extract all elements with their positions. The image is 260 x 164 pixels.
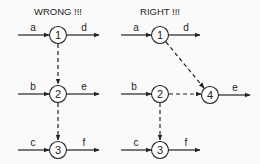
- node-2-label: 2: [55, 88, 61, 100]
- node-2-label: 2: [157, 88, 163, 100]
- edge-label-d: d: [183, 22, 189, 33]
- edge-label-a: a: [133, 22, 139, 33]
- edge-label-f: f: [185, 137, 188, 148]
- network-diagrams: WRONG !!! a 1 d b 2 e c 3 f RIGHT !!! a …: [0, 0, 260, 164]
- edge-label-e: e: [232, 82, 238, 93]
- edge-label-b: b: [131, 81, 137, 92]
- node-1-label: 1: [157, 29, 163, 41]
- right-title: RIGHT !!!: [140, 6, 180, 17]
- edge-label-e: e: [81, 81, 87, 92]
- wrong-title: WRONG !!!: [34, 6, 82, 17]
- node-1-label: 1: [55, 29, 61, 41]
- edge-label-c: c: [31, 137, 36, 148]
- wrong-diagram: WRONG !!! a 1 d b 2 e c 3 f: [18, 6, 99, 159]
- node-4-label: 4: [207, 89, 213, 101]
- edge-label-f: f: [83, 137, 86, 148]
- edge-label-c: c: [134, 137, 139, 148]
- node-3-label: 3: [157, 144, 163, 156]
- edge-label-a: a: [30, 22, 36, 33]
- edge-label-b: b: [30, 81, 36, 92]
- right-diagram: RIGHT !!! a 1 d b 2 4 e c 3 f: [121, 6, 250, 159]
- edge-label-d: d: [81, 22, 87, 33]
- dummy-edge-1-4: [166, 42, 204, 88]
- node-3-label: 3: [55, 144, 61, 156]
